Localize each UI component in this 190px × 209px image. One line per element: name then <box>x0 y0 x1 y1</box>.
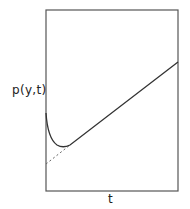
x-axis-label: t <box>108 192 113 206</box>
p-curve <box>46 62 178 147</box>
chart-figure <box>0 0 190 209</box>
dashed-asymptote-line <box>46 145 70 164</box>
plot-frame <box>46 10 178 191</box>
y-axis-label: p(y,t) <box>12 83 46 97</box>
